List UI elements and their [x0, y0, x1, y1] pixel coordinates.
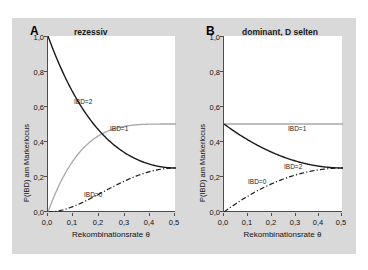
panel-b-xtick-0.2: 0,2 — [259, 218, 283, 227]
panel-a-curve-ibd1 — [48, 124, 176, 212]
panel-b-curve-ibd0 — [224, 168, 343, 212]
panel-a-xtick-0.3: 0,3 — [112, 218, 136, 227]
panel-b-ytick-0.6: 0,6 — [198, 103, 220, 112]
panel-b: B dominant, D selten P(IBD) am Markerloc… — [192, 18, 356, 254]
panel-a: A rezessiv P(IBD) am Markerlocus 1,0 0,8… — [12, 18, 192, 254]
panel-b-label-ibd1: IBD=1 — [288, 125, 306, 132]
panel-b-curves — [224, 36, 343, 212]
panel-a-xtickmark-0.4 — [149, 213, 150, 216]
panel-b-ytick-0.0: 0,0 — [198, 208, 220, 217]
panel-b-label-ibd2: IBD=2 — [284, 163, 302, 170]
panel-b-xtickmark-0.4 — [318, 213, 319, 216]
panel-b-label-ibd0: IBD=0 — [248, 178, 266, 185]
panel-a-label-ibd1: IBD=1 — [110, 125, 128, 132]
panel-b-x-axis-label: Rekombinationsrate θ — [223, 230, 342, 239]
panel-a-xtickmark-0.0 — [47, 213, 48, 216]
panel-a-ytick-1.0: 1,0 — [22, 33, 44, 42]
panel-b-xtick-0.3: 0,3 — [283, 218, 307, 227]
panel-b-xtickmark-0.0 — [223, 213, 224, 216]
panel-b-ytick-0.4: 0,4 — [198, 138, 220, 147]
panel-a-xtickmark-0.3 — [124, 213, 125, 216]
panel-a-plot-area — [47, 36, 175, 212]
panel-b-xtick-0.4: 0,4 — [306, 218, 330, 227]
panel-a-xtick-0.5: 0,5 — [162, 218, 186, 227]
panel-a-y-axis-label: P(IBD) am Markerlocus — [22, 124, 31, 202]
panel-b-xtickmark-0.3 — [295, 213, 296, 216]
panel-a-label-ibd0: IBD=0 — [84, 191, 102, 198]
panel-a-x-axis-label: Rekombinationsrate θ — [47, 230, 175, 239]
panel-a-curves — [48, 36, 176, 212]
panel-b-xtick-0.1: 0,1 — [235, 218, 259, 227]
panel-a-label-ibd2: IBD=2 — [74, 98, 92, 105]
panel-a-xtickmark-0.2 — [98, 213, 99, 216]
panel-a-ytick-0.8: 0,8 — [22, 68, 44, 77]
panel-a-xtick-0.0: 0,0 — [35, 218, 59, 227]
panel-a-ytick-0.6: 0,6 — [22, 103, 44, 112]
panel-b-xtickmark-0.1 — [247, 213, 248, 216]
panel-a-xtickmark-0.1 — [72, 213, 73, 216]
panel-b-ytick-0.2: 0,2 — [198, 173, 220, 182]
panel-b-xtick-0.0: 0,0 — [211, 218, 235, 227]
panel-b-ytick-1.0: 1,0 — [198, 33, 220, 42]
panel-a-ytick-0.4: 0,4 — [22, 138, 44, 147]
panel-a-xtick-0.1: 0,1 — [60, 218, 84, 227]
panel-b-xtickmark-0.2 — [271, 213, 272, 216]
panel-a-xtick-0.2: 0,2 — [86, 218, 110, 227]
panel-a-ytick-0.2: 0,2 — [22, 173, 44, 182]
panel-b-xtick-0.5: 0,5 — [329, 218, 353, 227]
panel-a-curve-ibd0 — [48, 168, 176, 212]
panel-a-xtickmark-0.5 — [174, 213, 175, 216]
panel-a-curve-ibd2 — [48, 36, 176, 168]
panel-b-curve-ibd2 — [224, 124, 343, 168]
panel-b-xtickmark-0.5 — [341, 213, 342, 216]
panel-b-plot-area — [223, 36, 342, 212]
panel-a-ytick-0.0: 0,0 — [22, 208, 44, 217]
figure-canvas: A rezessiv P(IBD) am Markerlocus 1,0 0,8… — [12, 18, 356, 254]
panel-b-ytick-0.8: 0,8 — [198, 68, 220, 77]
panel-b-y-axis-label: P(IBD) am Markerlocus — [198, 124, 207, 202]
panel-a-xtick-0.4: 0,4 — [137, 218, 161, 227]
